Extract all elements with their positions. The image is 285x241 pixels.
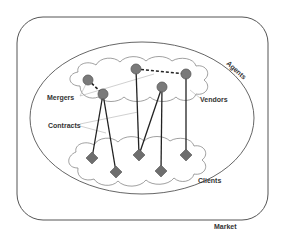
vendor-node bbox=[83, 75, 93, 85]
clients-label: Clients bbox=[198, 177, 221, 184]
vendor-node bbox=[157, 82, 167, 92]
market-boundary bbox=[17, 17, 268, 220]
market-agents-diagram: Mergers Vendors Contracts Clients Market… bbox=[0, 0, 285, 241]
vendor-node bbox=[98, 89, 108, 99]
contracts-label: Contracts bbox=[48, 122, 81, 129]
agents-label: Agents bbox=[225, 60, 248, 82]
market-label: Market bbox=[214, 223, 237, 230]
mergers-label: Mergers bbox=[47, 94, 74, 102]
vendors-label: Vendors bbox=[200, 96, 228, 103]
vendor-node bbox=[131, 64, 141, 74]
vendor-node bbox=[181, 69, 191, 79]
